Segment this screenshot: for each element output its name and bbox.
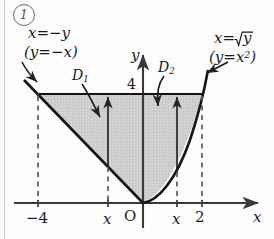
x-axis-label: x bbox=[253, 210, 261, 225]
curve-label-y-equals-x-squared-suffix: ) bbox=[250, 48, 256, 66]
region-label-d2-subscript: 2 bbox=[169, 66, 175, 76]
region-label-d1-subscript: 1 bbox=[83, 74, 89, 84]
x-tick-label-x-left: x bbox=[103, 212, 111, 227]
region-label-d2: D2 bbox=[158, 60, 175, 76]
curve-label-y-equals-x-squared: (y=x2) bbox=[209, 50, 256, 65]
curve-label-x-equals-sqrt-y-prefix: x= bbox=[214, 29, 235, 47]
curve-label-y-equals-minus-x: (y=−x) bbox=[24, 45, 78, 60]
radical-group: y bbox=[235, 31, 252, 46]
curve-label-x-equals-minus-y: x=−y bbox=[28, 26, 70, 41]
region-label-d1-base: D bbox=[72, 67, 83, 83]
curve-label-y-equals-x-squared-prefix: (y=x bbox=[209, 48, 244, 66]
math-figure-region-d1-d2: 1 x=−y (y=−x) x=y (y=x2) D1 D2 y x 4 O −… bbox=[0, 0, 274, 239]
annotation-arrow-line-label bbox=[22, 62, 37, 82]
x-tick-label-minus-4: −4 bbox=[26, 211, 48, 226]
radical-sign-icon bbox=[234, 31, 246, 47]
y-tick-label-4: 4 bbox=[127, 77, 136, 91]
curve-label-x-equals-sqrt-y: x=y bbox=[214, 31, 253, 46]
x-tick-label-x-right: x bbox=[172, 212, 180, 227]
y-axis-label: y bbox=[131, 48, 139, 63]
region-label-d2-base: D bbox=[158, 59, 169, 75]
x-tick-label-2: 2 bbox=[195, 210, 205, 225]
item-number-badge: 1 bbox=[13, 4, 35, 26]
origin-label: O bbox=[124, 209, 136, 224]
region-label-d1: D1 bbox=[72, 68, 89, 84]
